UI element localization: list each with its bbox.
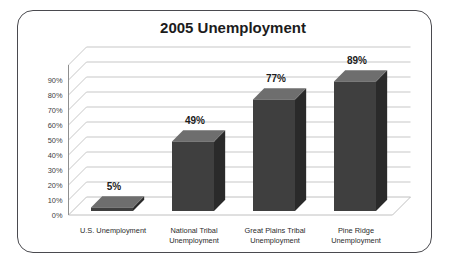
data-labels-group: 5%49%77%89% [107,55,367,192]
category-label-line: Unemployment [169,236,219,245]
unemployment-bar-chart: 2005 Unemployment 0%10%20%30%40%50%60%70… [0,0,450,269]
bar-column [172,130,225,211]
category-label-line: Unemployment [250,236,300,245]
category-label-line: Pine Ridge [338,226,374,235]
y-axis-tick-label: 60% [48,121,63,130]
bar-front-face [172,142,214,212]
bar-front-face [91,208,133,212]
bar-side-face [295,88,306,211]
bar-column [91,196,144,211]
bar-column [334,70,387,211]
y-axis-tick-label: 10% [48,196,63,205]
bar-front-face [334,82,376,212]
y-axis-tick-label: 0% [52,211,63,220]
bar-front-face [253,100,295,212]
bar-value-label: 49% [185,115,205,126]
y-axis-tick-label: 50% [48,136,63,145]
category-label-line: U.S. Unemployment [80,226,146,235]
y-axis-tick-label: 20% [48,181,63,190]
category-label-line: Unemployment [331,236,381,245]
bar-side-face [376,70,387,211]
chart-title: 2005 Unemployment [160,19,306,36]
y-axis-tick-labels: 0%10%20%30%40%50%60%70%80%90% [48,76,63,220]
y-axis-tick-label: 70% [48,106,63,115]
bar-value-label: 89% [347,55,367,66]
y-axis-tick-label: 80% [48,91,63,100]
y-axis-tick-label: 40% [48,151,63,160]
bar-column [253,88,306,211]
category-label-line: Great Plains Tribal [245,226,306,235]
bars-group [91,70,387,211]
bar-side-face [214,130,225,211]
category-labels-group: U.S. UnemploymentNational TribalUnemploy… [80,226,381,245]
category-label-line: National Tribal [170,226,218,235]
bar-value-label: 5% [107,181,122,192]
y-axis-tick-label: 30% [48,166,63,175]
y-axis-tick-label: 90% [48,76,63,85]
bar-value-label: 77% [266,73,286,84]
